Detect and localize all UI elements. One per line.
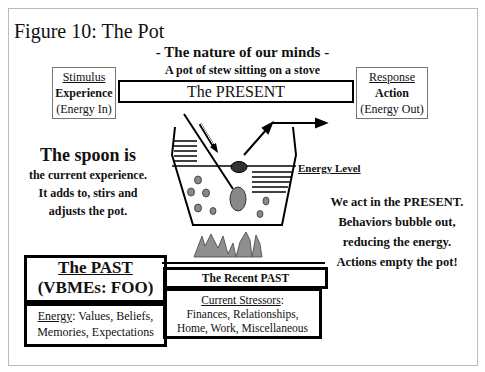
action-line: Behaviors bubble out,	[316, 212, 478, 232]
past-energy-label: Energy	[38, 309, 72, 323]
past-energy-text: : Values, Beliefs,	[72, 309, 153, 323]
action-line: Actions empty the pot!	[316, 252, 478, 272]
energy-lines-right	[252, 172, 293, 192]
past-energy-text-2: Memories, Expectations	[27, 324, 164, 340]
past-title: The PAST	[27, 258, 164, 278]
spoon-line: It adds to, stirs and	[24, 184, 152, 202]
spoon-description: The spoon is the current experience. It …	[24, 144, 152, 220]
past-energy-box: Energy: Values, Beliefs, Memories, Expec…	[24, 303, 167, 347]
action-description: We act in the PRESENT. Behaviors bubble …	[316, 192, 478, 272]
rising-bubble-icon	[231, 162, 247, 173]
spoon-line: adjusts the pot.	[24, 202, 152, 220]
recent-past-box: The Recent PAST	[163, 267, 328, 289]
action-line: We act in the PRESENT.	[316, 192, 478, 212]
action-line: reducing the energy.	[316, 232, 478, 252]
stir-arrow-icon	[200, 124, 218, 153]
stressors-colon: :	[281, 294, 284, 306]
spoon-bowl-icon	[230, 187, 246, 211]
energy-lines-left	[174, 141, 197, 161]
flame-icons	[194, 232, 262, 257]
past-subtitle: (VBMEs: FOO)	[27, 278, 164, 298]
stressors-label: Current Stressors	[201, 294, 281, 306]
energy-level-label: Energy Level	[298, 162, 361, 174]
spoon-line: the current experience.	[24, 166, 152, 184]
spoon-headline: The spoon is	[24, 144, 152, 166]
stressors-line: Finances, Relationships,	[166, 307, 319, 321]
past-box: The PAST (VBMEs: FOO)	[24, 255, 167, 303]
energy-out-arrow-icon	[244, 119, 326, 155]
stressors-line: Home, Work, Miscellaneous	[166, 321, 319, 335]
current-stressors-box: Current Stressors: Finances, Relationshi…	[163, 288, 322, 339]
